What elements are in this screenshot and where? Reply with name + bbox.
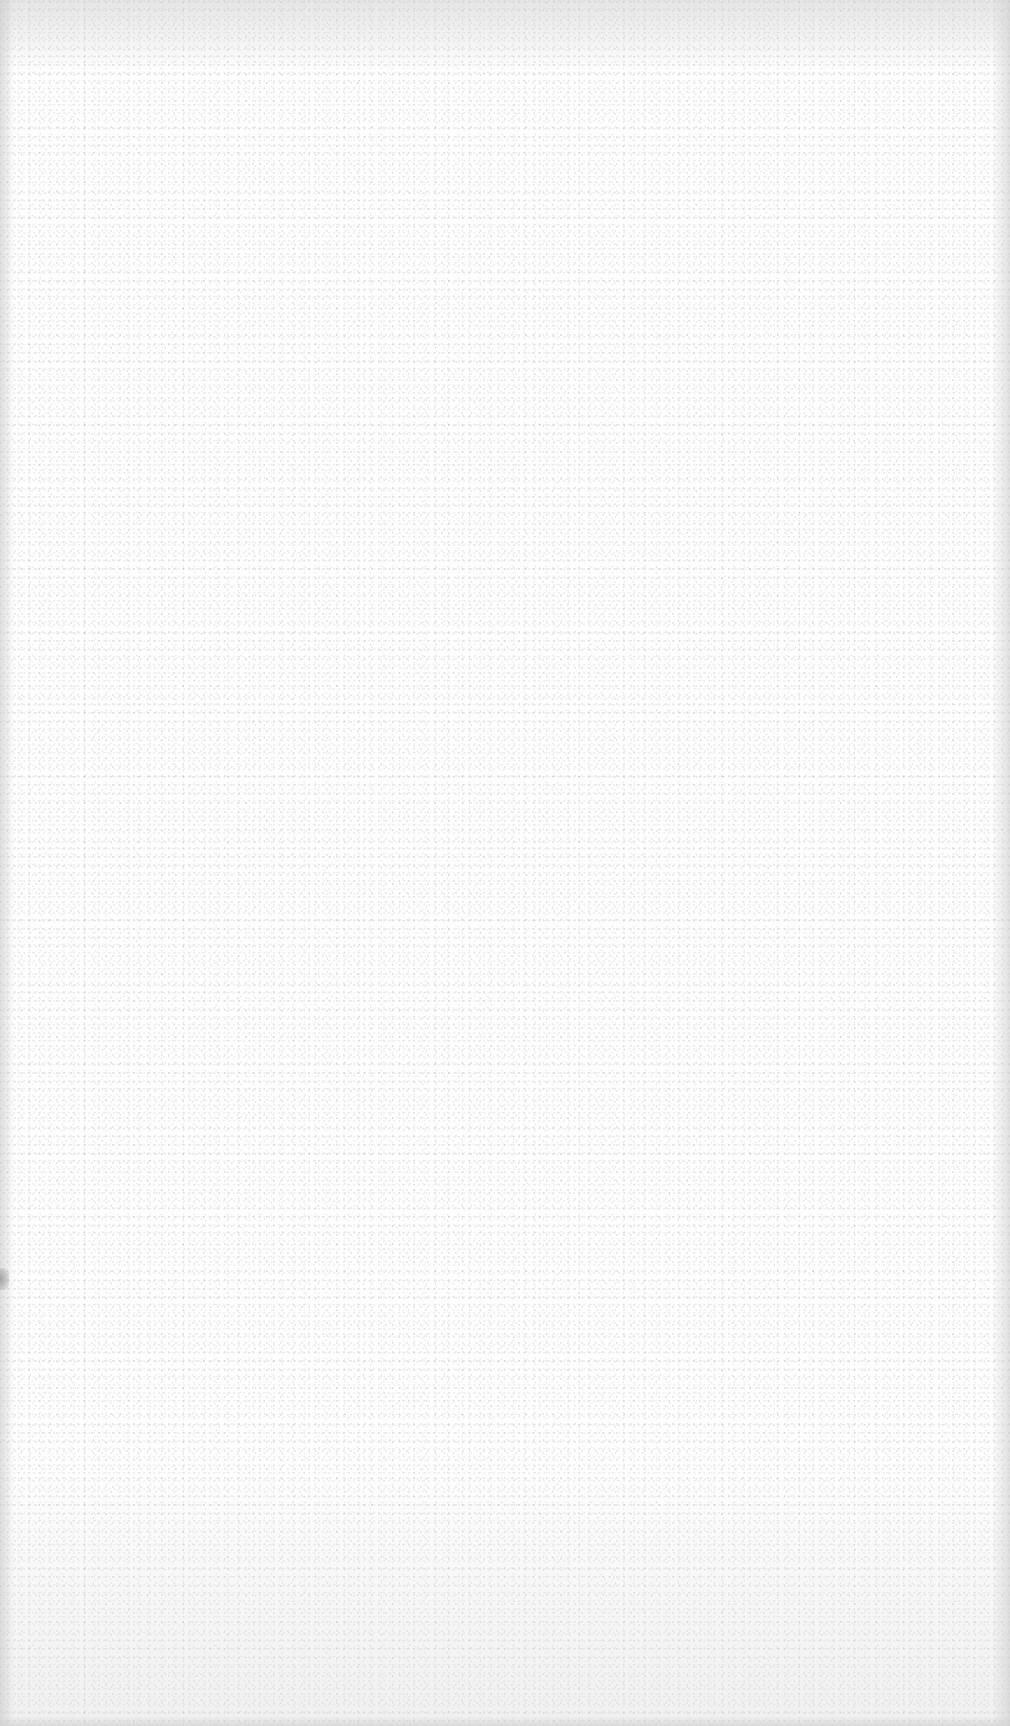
bottom-grain-shading (0, 1466, 1010, 1726)
top-edge-shading (0, 0, 1010, 70)
right-edge-shadow (992, 0, 1010, 1726)
blank-paper-page (0, 0, 1010, 1726)
bottom-edge-shadow (0, 1716, 1010, 1726)
left-edge-smudge-mark (0, 1268, 9, 1290)
left-edge-shadow (0, 0, 14, 1726)
